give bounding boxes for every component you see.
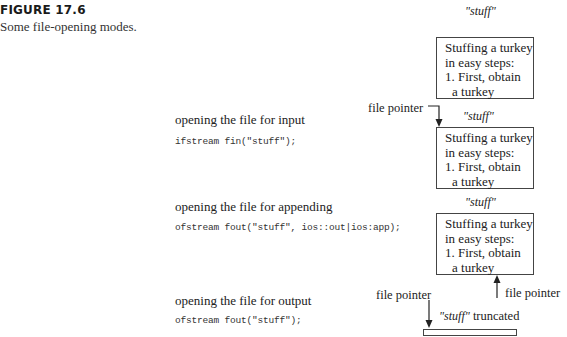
arrows-layer [0,0,567,337]
output-pointer-arrow-icon [426,300,433,328]
append-pointer-arrow-icon [494,275,501,298]
input-pointer-arrow-icon [428,106,443,127]
